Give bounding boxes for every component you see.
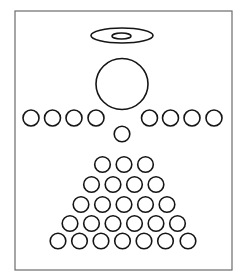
wing-circle	[206, 110, 222, 126]
wing-circle	[66, 110, 82, 126]
body-circle	[72, 233, 88, 249]
body-circle	[93, 233, 109, 249]
body-circle	[105, 177, 121, 193]
frame-border	[15, 11, 232, 270]
body-circle	[159, 197, 175, 213]
body-circle	[127, 177, 143, 193]
body-circle	[73, 197, 89, 213]
body-circle	[105, 216, 121, 232]
body-circle	[116, 197, 132, 213]
body-circle	[127, 216, 143, 232]
body-circle	[138, 157, 154, 173]
body-circle	[95, 157, 111, 173]
body-triangle	[50, 157, 196, 249]
left-wing	[23, 110, 104, 126]
body-circle	[170, 216, 186, 232]
wing-circle	[163, 110, 179, 126]
head-circle	[96, 59, 148, 110]
body-circle	[180, 233, 196, 249]
body-circle	[138, 197, 154, 213]
halo-outer-ring	[91, 28, 153, 43]
wing-circle	[45, 110, 61, 126]
body-circle	[50, 233, 66, 249]
wing-circle	[23, 110, 39, 126]
body-circle	[116, 157, 132, 173]
neck-circle	[114, 126, 130, 142]
body-circle	[84, 177, 100, 193]
halo-inner-ring	[112, 33, 131, 39]
body-circle	[84, 216, 100, 232]
body-circle	[148, 216, 164, 232]
body-circle	[148, 177, 164, 193]
halo	[91, 28, 153, 43]
right-wing	[142, 110, 223, 126]
body-circle	[62, 216, 78, 232]
angel-figure-canvas	[0, 0, 239, 273]
body-circle	[136, 233, 152, 249]
body-circle	[115, 233, 131, 249]
wing-circle	[184, 110, 200, 126]
body-circle	[158, 233, 174, 249]
wing-circle	[88, 110, 104, 126]
wing-circle	[142, 110, 158, 126]
body-circle	[95, 197, 111, 213]
